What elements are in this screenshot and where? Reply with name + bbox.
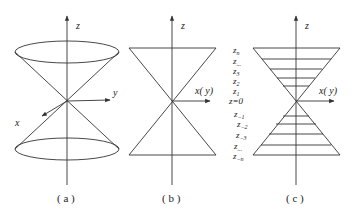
y-label-a: y [112,87,118,98]
level-z0: z=0 [228,96,244,106]
x-label-a: x [14,117,20,128]
horizontal-label-b: x( y) [194,85,214,97]
level-zmn: z−n [232,151,244,162]
z-label-c: z [304,20,309,31]
caption-a: ( a ) [57,192,75,205]
x-axis-a [42,101,67,116]
panel-c [253,16,340,185]
level-labels: zn z... z3 z2 z1 z=0 z−1 z−2 z−3 z... z−… [228,45,248,162]
y-axis-a [67,100,110,101]
z-label-a: z [75,20,80,31]
level-zm3: z−3 [235,130,247,141]
caption-c: ( c ) [286,192,304,205]
caption-b: ( b ) [162,192,181,205]
level-zn: zn [232,45,240,56]
light-cone-figure: z y x ( a ) z x( y) ( b ) z x( y) zn z. [0,0,355,218]
z-label-b: z [180,20,185,31]
level-zm2: z−2 [236,119,248,130]
panel-a [15,16,119,185]
horizontal-label-c: x( y) [318,85,338,97]
panel-b [129,16,216,185]
